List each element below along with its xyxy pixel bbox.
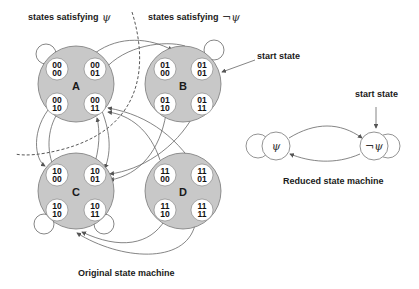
- state-label: 11: [91, 209, 100, 219]
- state-label: 11: [91, 103, 100, 113]
- group-d: 11 00 11 01 11 10 11 11 D: [145, 153, 221, 229]
- state-label: 01: [90, 174, 100, 184]
- not-psi-node-label: ¬ψ: [365, 140, 383, 153]
- state-label: 00: [52, 174, 62, 184]
- not-psi-region-label: states satisfying: [148, 12, 219, 22]
- state-label: 00: [52, 68, 62, 78]
- state-label: 01: [197, 68, 207, 78]
- psi-region-symbol: ψ: [102, 11, 111, 24]
- state-label: 11: [198, 103, 207, 113]
- state-label: 01: [90, 68, 100, 78]
- state-label: 01: [197, 174, 207, 184]
- state-label: 10: [160, 103, 170, 113]
- group-a: 00 00 00 01 00 10 00 11 A: [38, 46, 114, 122]
- group-name: A: [72, 80, 80, 92]
- psi-node-label: ψ: [272, 140, 281, 153]
- reduced-state-machine: ψ ¬ψ start state: [246, 89, 400, 161]
- original-caption: Original state machine: [78, 268, 175, 278]
- state-label: 00: [160, 68, 170, 78]
- psi-region-label: states satisfying: [28, 12, 99, 22]
- group-name: D: [179, 186, 187, 198]
- group-c: 10 00 10 01 10 10 10 11 C: [38, 153, 114, 229]
- state-label: 10: [52, 209, 62, 219]
- group-name: B: [179, 80, 187, 92]
- start-state-label-reduced: start state: [355, 89, 398, 99]
- state-label: 00: [160, 174, 170, 184]
- group-name: C: [72, 186, 80, 198]
- group-b: 01 00 01 01 01 10 01 11 B: [145, 46, 221, 122]
- diagram-canvas: states satisfying ψ states satisfying ¬ψ: [0, 0, 419, 289]
- state-label: 10: [52, 103, 62, 113]
- state-label: 10: [160, 209, 170, 219]
- start-state-label: start state: [257, 51, 300, 61]
- not-psi-region-symbol: ¬ψ: [222, 11, 240, 24]
- reduced-caption: Reduced state machine: [283, 176, 384, 186]
- state-label: 11: [198, 209, 207, 219]
